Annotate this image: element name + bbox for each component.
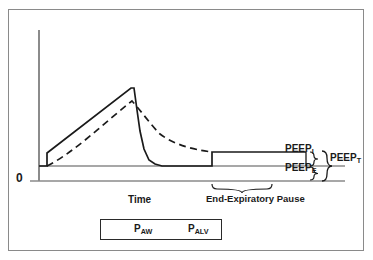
- legend-item-paw: PAW: [134, 224, 152, 234]
- peep-extrinsic-label: PEEPE: [285, 163, 316, 173]
- legend-paw-text: P: [134, 223, 141, 234]
- end-expiratory-pause-label: End-Expiratory Pause: [206, 194, 305, 204]
- peep-e-text: PEEP: [285, 162, 312, 173]
- peep-t-subscript: T: [357, 156, 361, 165]
- legend-palv-text: P: [188, 223, 195, 234]
- peep-e-subscript: E: [312, 166, 317, 175]
- peep-total-label: PEEPT: [330, 153, 361, 163]
- peep-t-text: PEEP: [330, 152, 357, 163]
- peep-i-subscript: I: [312, 147, 314, 156]
- y-axis-zero-label: 0: [16, 172, 23, 184]
- paw-trace: [39, 88, 306, 166]
- peep-i-text: PEEP: [285, 143, 312, 154]
- figure-container: 0 Time End-Expiratory Pause PEEPI PEEPE …: [0, 0, 373, 260]
- peep-intrinsic-label: PEEPI: [285, 144, 314, 154]
- legend-paw-subscript: AW: [141, 227, 153, 236]
- pause-brace: [212, 184, 272, 193]
- legend-item-palv: PALV: [188, 224, 209, 234]
- legend-palv-subscript: ALV: [195, 227, 209, 236]
- x-axis-label: Time: [128, 195, 151, 205]
